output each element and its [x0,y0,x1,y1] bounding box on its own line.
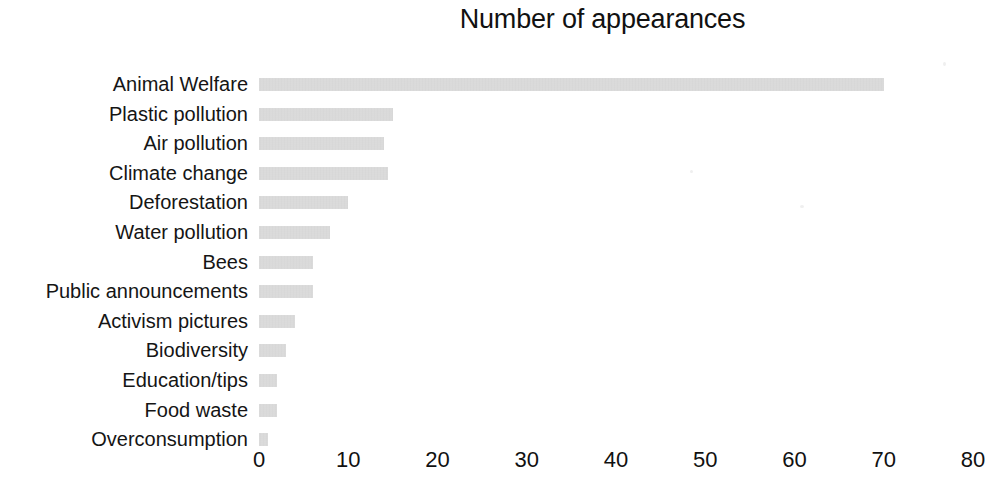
bar-category-label: Food waste [145,396,248,426]
bar [259,285,313,298]
bar [259,196,348,209]
chart-figure: Number of appearances Animal WelfarePlas… [0,0,993,492]
bar [259,404,277,417]
bar-row: Food waste [259,396,973,426]
bar [259,137,384,150]
chart-title: Number of appearances [0,4,993,35]
bar-row: Biodiversity [259,336,973,366]
bar-row: Air pollution [259,129,973,159]
bar [259,315,295,328]
bar-category-label: Deforestation [129,188,248,218]
bar-category-label: Activism pictures [98,307,248,337]
bar-category-label: Water pollution [115,218,248,248]
bar [259,78,884,91]
bar-row: Activism pictures [259,307,973,337]
x-tick-label: 10 [336,447,360,473]
bar-row: Water pollution [259,218,973,248]
bar-row: Deforestation [259,188,973,218]
bar-category-label: Animal Welfare [113,70,248,100]
bar-category-label: Climate change [109,159,248,189]
bar-category-label: Overconsumption [91,425,248,455]
bar [259,344,286,357]
bar-category-label: Biodiversity [146,336,248,366]
bar [259,374,277,387]
bar [259,433,268,446]
bar [259,167,388,180]
bar-row: Climate change [259,159,973,189]
x-tick-label: 70 [872,447,896,473]
x-tick-label: 0 [253,447,265,473]
x-tick-label: 40 [604,447,628,473]
bar-row: Public announcements [259,277,973,307]
x-tick-label: 50 [693,447,717,473]
bar-category-label: Education/tips [122,366,248,396]
bar-row: Plastic pollution [259,100,973,130]
x-tick-label: 30 [515,447,539,473]
bar-row: Education/tips [259,366,973,396]
x-tick-label: 20 [425,447,449,473]
bar-row: Bees [259,248,973,278]
bar [259,108,393,121]
plot-area: Animal WelfarePlastic pollutionAir pollu… [259,70,973,445]
x-axis: 01020304050607080 [259,447,973,487]
scan-artifact [943,62,946,66]
x-tick-label: 80 [961,447,985,473]
bar-category-label: Plastic pollution [109,100,248,130]
bar-category-label: Public announcements [46,277,248,307]
bar [259,226,330,239]
bar-category-label: Air pollution [143,129,248,159]
x-tick-label: 60 [782,447,806,473]
bar [259,256,313,269]
bar-category-label: Bees [202,248,248,278]
bar-row: Animal Welfare [259,70,973,100]
